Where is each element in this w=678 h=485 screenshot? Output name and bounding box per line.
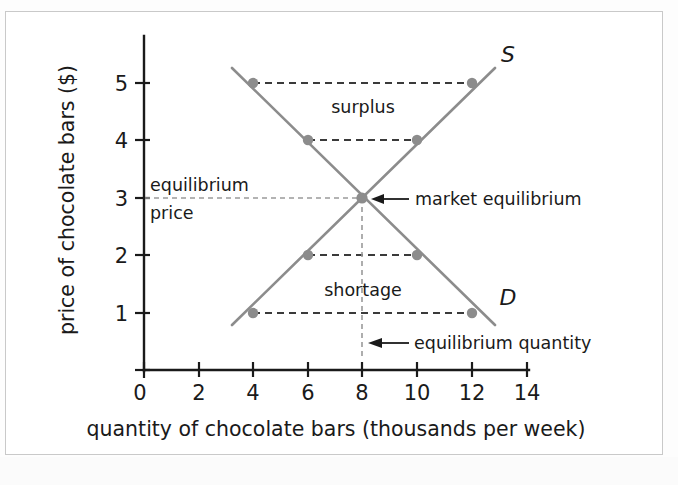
- y-tick-labels: 5 4 3 2 1: [115, 72, 128, 326]
- equilibrium-quantity-callout: equilibrium quantity: [368, 333, 591, 353]
- market-equilibrium-point[interactable]: [356, 192, 367, 203]
- market-equilibrium-label: market equilibrium: [415, 189, 582, 209]
- x-tick-label-12: 12: [459, 381, 486, 405]
- x-tick-label-14: 14: [514, 381, 541, 405]
- x-tick-label-6: 6: [301, 381, 314, 405]
- shortage-label: shortage: [324, 280, 402, 300]
- supply-point-4-1: [248, 308, 258, 318]
- equilibrium-quantity-label: equilibrium quantity: [414, 333, 591, 353]
- x-tick-label-0: 0: [133, 381, 146, 405]
- demand-point-6-4: [303, 135, 313, 145]
- surplus-label: surplus: [331, 97, 395, 117]
- equilibrium-quantity-arrow-head: [368, 338, 382, 348]
- supply-point-10-4: [412, 135, 422, 145]
- equilibrium-price-label-top: equilibrium: [150, 175, 249, 195]
- equilibrium-price-label-bottom: price: [150, 203, 194, 223]
- demand-point-12-1: [467, 308, 477, 318]
- x-axis-title: quantity of chocolate bars (thousands pe…: [87, 417, 586, 441]
- x-tick-label-4: 4: [246, 381, 259, 405]
- y-axis-title: price of chocolate bars ($): [55, 65, 79, 335]
- supply-curve-label: S: [501, 42, 515, 67]
- y-tick-label-1: 1: [115, 302, 128, 326]
- supply-point-6-2: [303, 250, 313, 260]
- x-tick-label-10: 10: [404, 381, 431, 405]
- market-equilibrium-arrow-head: [371, 194, 384, 204]
- supply-point-12-5: [467, 78, 477, 88]
- y-tick-label-3: 3: [115, 187, 128, 211]
- y-tick-label-5: 5: [115, 72, 128, 96]
- market-equilibrium-callout: market equilibrium: [371, 189, 582, 209]
- x-tick-label-2: 2: [192, 381, 205, 405]
- figure-root: 5 4 3 2 1 0 2 4 6 8 10 12 14 qu: [0, 0, 678, 485]
- y-tick-marks: [135, 83, 150, 370]
- x-tick-labels: 0 2 4 6 8 10 12 14: [133, 381, 540, 405]
- x-tick-label-8: 8: [355, 381, 368, 405]
- demand-point-10-2: [412, 250, 422, 260]
- demand-point-4-5: [248, 78, 258, 88]
- y-tick-label-2: 2: [115, 244, 128, 268]
- y-tick-label-4: 4: [115, 129, 128, 153]
- supply-demand-chart: 5 4 3 2 1 0 2 4 6 8 10 12 14 qu: [0, 0, 678, 485]
- demand-curve-label: D: [500, 285, 517, 310]
